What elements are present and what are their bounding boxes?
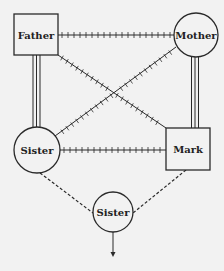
edge-sister-child-dashed [40,173,93,213]
diagram-canvas [0,0,224,271]
edge-mother-mark-triple [192,56,199,128]
edge-sister-mark-hatched [60,147,166,153]
node-sister-bottom-label: Sister [97,207,130,218]
edge-father-mother-hatched [58,32,174,38]
node-father-label: Father [18,30,55,41]
edge-mark-child-dashed [133,170,186,213]
genogram-diagram: Father Mother Sister Mark Sister [0,0,224,271]
node-sister-left-label: Sister [21,145,54,156]
node-mother-label: Mother [175,30,216,41]
node-mark-label: Mark [173,144,203,155]
arrow-down-icon [111,232,116,257]
edge-father-sister-triple [33,55,40,128]
